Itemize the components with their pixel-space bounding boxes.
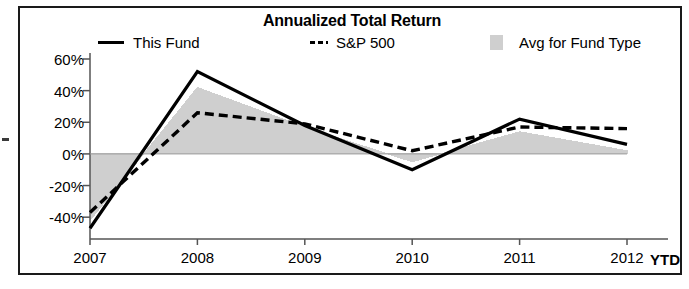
y-axis-tick-label: 40% [24, 82, 84, 99]
y-axis-tick-label: 20% [24, 114, 84, 131]
chart-figure: Annualized Total Return This Fund S&P 50… [0, 0, 689, 289]
x-axis-tick-label: 2007 [73, 249, 106, 266]
x-axis-tick-label: 2008 [181, 249, 214, 266]
y-axis-tick-label: -40% [24, 209, 84, 226]
x-axis-tick-label: 2011 [503, 249, 535, 266]
x-axis-tick-label: 2010 [396, 249, 429, 266]
plot-area: 60%40%20%0%-20%-40% 20072008200920102011… [20, 8, 684, 277]
y-axis-tick-label: 0% [24, 145, 84, 162]
y-axis-tick-labels: 60%40%20%0%-20%-40% [20, 8, 84, 277]
edge-artifact [2, 138, 9, 141]
chart-frame: Annualized Total Return This Fund S&P 50… [18, 6, 682, 275]
x-axis-tick-label: 2009 [288, 249, 321, 266]
x-axis-tick-labels: 200720082009201020112012 [20, 249, 684, 275]
x-axis-ytd-note: YTD [650, 251, 680, 268]
y-axis-tick-label: -20% [24, 177, 84, 194]
x-axis-tick-label: 2012 [610, 249, 643, 266]
chart-plot-svg [20, 8, 684, 277]
y-axis-tick-label: 60% [24, 51, 84, 68]
